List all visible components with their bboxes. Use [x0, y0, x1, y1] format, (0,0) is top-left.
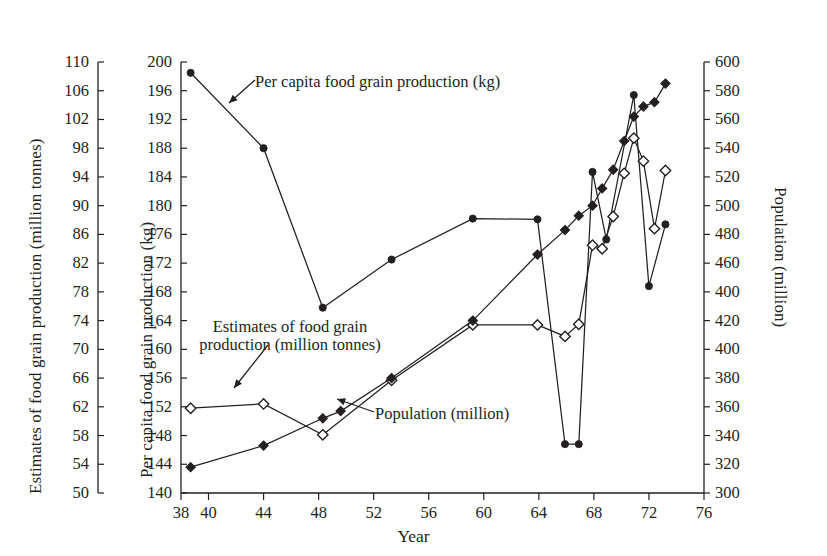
axes-layer: [98, 62, 710, 500]
data-point: [620, 136, 629, 145]
data-point: [660, 165, 670, 175]
data-point: [260, 145, 267, 152]
series-line: [191, 84, 666, 468]
data-point: [561, 441, 568, 448]
series-1: [187, 69, 669, 448]
data-point: [318, 414, 327, 423]
chart-figure: Estimates of food grain production (mill…: [0, 0, 827, 556]
data-point: [650, 98, 659, 107]
data-point: [388, 256, 395, 263]
data-point: [534, 216, 541, 223]
plot-area: [0, 0, 827, 556]
data-point: [259, 441, 268, 450]
arrow-population-head: [337, 398, 346, 405]
data-point: [645, 283, 652, 290]
data-point: [532, 320, 542, 330]
data-point: [598, 184, 607, 193]
data-point: [469, 215, 476, 222]
series-layer: [185, 69, 670, 472]
data-point: [186, 463, 195, 472]
series-line: [191, 73, 666, 444]
data-point: [336, 407, 345, 416]
data-point: [575, 441, 582, 448]
data-point: [661, 79, 670, 88]
data-point: [187, 69, 194, 76]
data-point: [630, 91, 637, 98]
data-point: [662, 221, 669, 228]
data-point: [319, 304, 326, 311]
data-point: [649, 223, 659, 233]
data-point: [609, 165, 618, 174]
arrow-food-grain-head: [234, 379, 242, 388]
data-point: [589, 168, 596, 175]
data-point: [619, 168, 629, 178]
arrow-food-grain: [234, 345, 268, 388]
series-2: [185, 133, 670, 440]
data-point: [258, 399, 268, 409]
series-3: [186, 79, 670, 472]
data-point: [588, 201, 597, 210]
annotation-arrows: [229, 80, 374, 412]
data-point: [185, 403, 195, 413]
